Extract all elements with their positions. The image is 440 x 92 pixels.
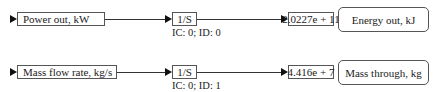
input-arrow-icon [10, 15, 17, 23]
integrator-params: IC: 0; ID: 1 [172, 80, 221, 91]
energy-out-output-block[interactable]: Energy out, kJ [338, 7, 429, 32]
connector-line [105, 19, 165, 20]
power-out-input-block[interactable]: Power out, kW [17, 12, 105, 26]
mass-flow-input-block[interactable]: Mass flow rate, kg/s [17, 65, 117, 79]
input-arrow-icon [10, 68, 17, 76]
integrator-params: IC: 0; ID: 0 [172, 27, 221, 38]
mass-through-output-block[interactable]: Mass through, kg [338, 60, 429, 85]
integrator-label: 1/S [177, 67, 192, 78]
integrator-block[interactable]: 1/S [172, 12, 197, 26]
connector-arrow-icon [165, 15, 172, 23]
power-out-label: Power out, kW [23, 14, 89, 25]
energy-display-block[interactable]: 2.0227e + 11 [288, 12, 334, 26]
connector-line [117, 72, 165, 73]
mass-display-block[interactable]: 4.416e + 7 [288, 65, 334, 79]
connector-line [197, 72, 281, 73]
energy-display-value: 2.0227e + 11 [282, 14, 339, 25]
mass-through-label: Mass through, kg [345, 67, 422, 79]
integrator-label: 1/S [177, 14, 192, 25]
integrator-block[interactable]: 1/S [172, 65, 197, 79]
connector-arrow-icon [165, 68, 172, 76]
energy-out-label: Energy out, kJ [352, 14, 416, 26]
mass-flow-label: Mass flow rate, kg/s [23, 67, 112, 78]
connector-line [197, 19, 281, 20]
mass-display-value: 4.416e + 7 [288, 67, 335, 78]
